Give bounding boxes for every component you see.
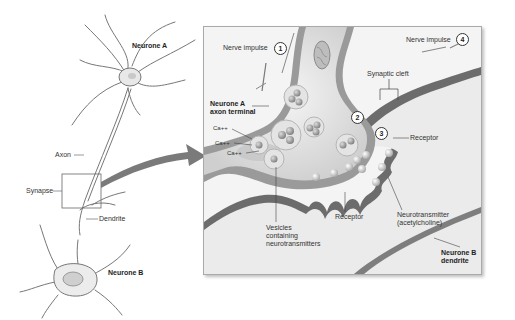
step-badge-1: 1 (274, 42, 287, 55)
label-synaptic-cleft: Synaptic cleft (367, 70, 409, 78)
label-neurone-a: Neurone A (132, 42, 167, 50)
label-nerve-impulse-1: Nerve impulse (223, 44, 268, 52)
step-badge-2: 2 (351, 111, 364, 124)
nerve-impulse-arrow-4 (422, 43, 460, 52)
label-dendrite: Dendrite (99, 215, 125, 223)
label-receptor-right: Receptor (410, 134, 438, 142)
label-ca-2: Ca++ (215, 139, 230, 147)
label-neurotransmitter: Neurotransmitter (acetylcholine) (397, 211, 449, 227)
label-receptor-bottom: Receptor (335, 213, 363, 221)
step-badge-4: 4 (456, 33, 469, 46)
label-synapse: Synapse (26, 187, 53, 195)
label-ca-1: Ca++ (213, 124, 228, 132)
mitochondrion (314, 41, 330, 69)
label-nerve-impulse-4: Nerve impulse (406, 36, 451, 44)
synapse-detail-panel: Nerve impulse 1 Nerve impulse 4 Synaptic… (203, 26, 482, 275)
synapse-detail-illustration (204, 27, 481, 274)
label-vesicles: Vesicles containing neurotransmitters (266, 224, 320, 248)
nerve-impulse-arrow-1 (262, 63, 266, 91)
label-axon: Axon (55, 151, 71, 159)
zoom-arrow (101, 144, 206, 188)
label-ca-3: Ca++ (227, 149, 242, 157)
label-axon-terminal: Neurone A axon terminal (210, 100, 256, 116)
label-neurone-b-dendrite: Neurone B dendrite (441, 249, 476, 265)
step-badge-3: 3 (375, 127, 388, 140)
label-neurone-b: Neurone B (108, 269, 143, 277)
